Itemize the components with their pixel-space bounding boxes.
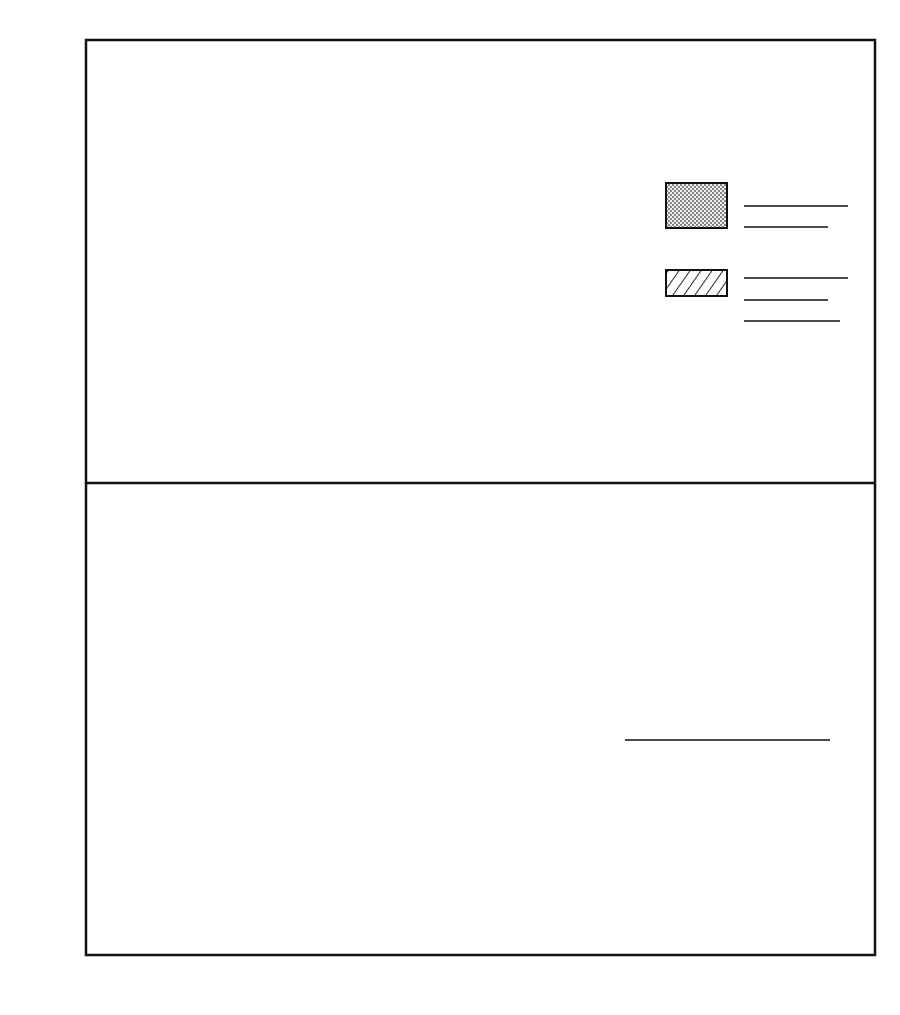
chart-canvas (0, 0, 900, 1015)
legend-swatch-physical-review-letters (666, 270, 727, 296)
legend-top (666, 183, 848, 321)
chart-frame (86, 40, 875, 955)
legend-swatch-physical-review (666, 183, 727, 228)
